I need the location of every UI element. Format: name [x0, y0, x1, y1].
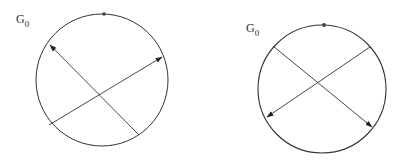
left-label: G0	[16, 12, 30, 29]
right-top-marker	[322, 23, 326, 27]
right-panel: G0	[246, 21, 386, 153]
left-arrow-up-left	[50, 45, 139, 135]
left-panel: G0	[16, 12, 168, 146]
right-label: G0	[246, 21, 260, 38]
diagram-canvas: G0 G0	[0, 0, 397, 163]
left-circle	[36, 14, 168, 146]
right-arrow-down-left	[267, 47, 370, 117]
right-circle	[258, 25, 386, 153]
right-arrow-down-right	[273, 46, 372, 127]
left-arrow-up-right	[49, 57, 162, 125]
left-top-marker	[102, 12, 106, 16]
